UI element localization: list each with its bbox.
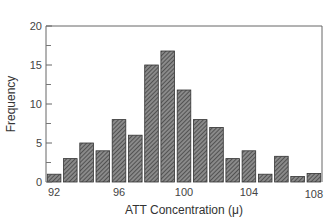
histogram-chart: 051015209296100104108 Frequency ATT Conc… — [0, 0, 332, 220]
histogram-bar — [177, 90, 191, 182]
histogram-bar — [96, 151, 110, 182]
histogram-bar — [193, 120, 207, 182]
histogram-bar — [226, 159, 240, 182]
x-axis-label: ATT Concentration (μ) — [125, 203, 243, 217]
y-tick-label: 0 — [36, 176, 42, 188]
x-tick-label: 96 — [113, 186, 125, 198]
y-tick-label: 5 — [36, 137, 42, 149]
x-tick-label: 104 — [240, 186, 258, 198]
histogram-bar — [307, 173, 321, 182]
histogram-bar — [145, 65, 159, 182]
histogram-bar — [242, 151, 256, 182]
histogram-bar — [64, 159, 78, 182]
histogram-bar — [47, 174, 61, 182]
x-tick-label: 108 — [305, 188, 323, 200]
y-tick-label: 20 — [30, 20, 42, 32]
x-tick-label: 92 — [48, 186, 60, 198]
histogram-bar — [210, 127, 224, 182]
histogram-bar — [129, 135, 143, 182]
histogram-bar — [161, 51, 175, 182]
histogram-bar — [275, 156, 289, 182]
histogram-bar — [112, 120, 126, 182]
y-tick-label: 10 — [30, 98, 42, 110]
histogram-bar — [291, 177, 305, 183]
y-tick-label: 15 — [30, 59, 42, 71]
y-axis-label: Frequency — [4, 76, 18, 133]
histogram-bar — [80, 143, 94, 182]
bars-group — [47, 51, 320, 182]
x-tick-label: 100 — [175, 186, 193, 198]
histogram-bar — [258, 174, 272, 182]
